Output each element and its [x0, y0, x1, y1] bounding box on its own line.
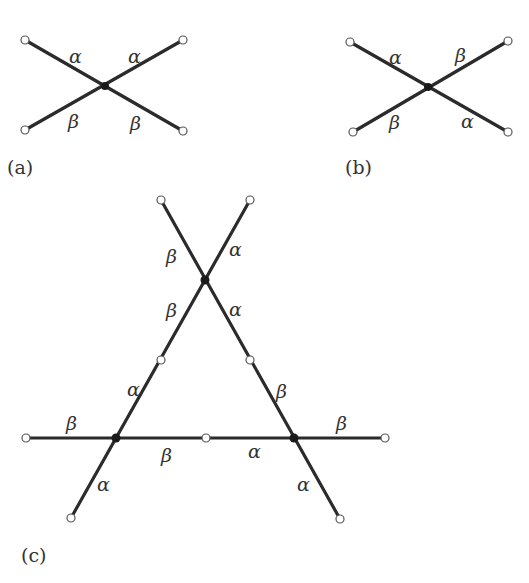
edge-label: α: [461, 110, 474, 132]
edge-label: β: [165, 245, 177, 267]
vertex-filled: [112, 434, 121, 443]
vertex-open: [349, 128, 357, 136]
diagram-canvas: α α β β (a) α β β α (b) β: [0, 0, 529, 583]
edge-label: α: [229, 238, 242, 260]
vertex-open: [67, 514, 75, 522]
vertex-open: [157, 196, 165, 204]
panel-caption: (a): [7, 156, 33, 178]
vertex-open: [346, 38, 354, 46]
edge-label: β: [67, 110, 79, 132]
edge-label: β: [129, 112, 141, 134]
edge-label: β: [335, 412, 347, 434]
vertex-open: [179, 127, 187, 135]
edge-label: α: [229, 298, 242, 320]
edge-label: β: [165, 299, 177, 321]
vertex-open: [504, 128, 512, 136]
vertex-open: [21, 126, 29, 134]
edge-label: α: [128, 45, 141, 67]
vertex-filled: [101, 82, 109, 90]
vertex-open: [202, 434, 210, 442]
edge-label: α: [69, 45, 82, 67]
vertex-open: [246, 356, 254, 364]
vertex-open: [381, 434, 389, 442]
edge-label: β: [454, 44, 466, 66]
vertex-open: [246, 196, 254, 204]
vertex-filled: [424, 83, 432, 91]
edge-label: α: [248, 440, 261, 462]
vertex-open: [179, 36, 187, 44]
edge-label: β: [160, 444, 172, 466]
vertex-open: [21, 36, 29, 44]
vertex-open: [157, 356, 165, 364]
edge-label: β: [275, 380, 287, 402]
vertex-filled: [290, 434, 299, 443]
panel-b: α β β α (b): [345, 37, 512, 178]
edge-label: α: [127, 378, 140, 400]
panel-caption: (b): [345, 156, 372, 178]
panel-caption: (c): [21, 544, 46, 566]
edge-label: β: [388, 111, 400, 133]
edge-label: α: [297, 473, 310, 495]
edge-label: α: [97, 473, 110, 495]
edge-label: β: [65, 412, 77, 434]
edge-label: α: [389, 46, 402, 68]
vertex-filled: [201, 276, 210, 285]
panel-c: β α β α α β β β β α α α (c): [21, 196, 389, 566]
vertex-open: [336, 515, 344, 523]
vertex-open: [504, 37, 512, 45]
panel-a: α α β β (a): [7, 36, 187, 178]
vertex-open: [22, 434, 30, 442]
